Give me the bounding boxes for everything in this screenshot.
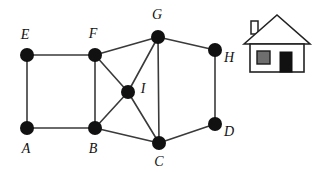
graph-node-h <box>208 43 222 57</box>
graph-node-label-h: H <box>223 50 235 65</box>
graph-node-label-f: F <box>88 26 98 41</box>
house-icon <box>244 15 310 72</box>
graph-node-b <box>88 121 102 135</box>
graph-node-label-i: I <box>140 81 147 96</box>
graph-node-d <box>208 117 222 131</box>
graph-node-label-a: A <box>21 141 31 156</box>
graph-figure: ABCDEFGHI <box>0 0 314 172</box>
graph-node-label-b: B <box>89 141 98 156</box>
graph-node-f <box>88 48 102 62</box>
graph-node-g <box>151 30 165 44</box>
graph-node-i <box>121 85 135 99</box>
graph-node-label-d: D <box>223 124 234 139</box>
graph-node-e <box>20 48 34 62</box>
graph-node-label-e: E <box>20 27 30 42</box>
graph-edge-f-g <box>95 37 158 55</box>
graph-node-label-g: G <box>152 7 162 22</box>
graph-edge-b-i <box>95 92 128 128</box>
graph-edge-i-c <box>128 92 159 143</box>
house-door <box>280 52 292 72</box>
graph-edge-b-c <box>95 128 159 143</box>
graph-edge-g-c <box>158 37 159 143</box>
graph-canvas: ABCDEFGHI <box>0 0 314 172</box>
graph-node-c <box>152 136 166 150</box>
graph-edge-c-d <box>159 124 215 143</box>
graph-node-label-c: C <box>154 154 164 169</box>
house-window <box>257 51 270 64</box>
graph-edge-g-h <box>158 37 215 50</box>
graph-edges <box>27 37 215 143</box>
graph-node-a <box>20 121 34 135</box>
graph-edge-f-i <box>95 55 128 92</box>
